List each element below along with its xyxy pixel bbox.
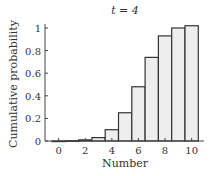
- bar-9: [172, 28, 185, 141]
- x-tick-label: 6: [135, 145, 141, 156]
- x-tick-label: 8: [162, 145, 168, 156]
- bar-7: [145, 57, 158, 141]
- bar-10: [185, 26, 198, 141]
- y-tick-label: 0.2: [25, 113, 41, 124]
- y-tick-label: 0.8: [25, 46, 41, 57]
- y-tick-label: 0.6: [25, 68, 41, 79]
- y-tick-label: 0.4: [25, 91, 41, 102]
- x-axis-label: Number: [102, 157, 149, 170]
- bar-3: [92, 138, 105, 141]
- cumulative-probability-chart: t = 4 00.20.40.60.81 0246810 Number Cumu…: [0, 0, 217, 176]
- bar-8: [158, 36, 171, 141]
- bar-series: [52, 26, 198, 142]
- x-tick-label: 2: [82, 145, 88, 156]
- chart-title: t = 4: [111, 4, 139, 17]
- bar-5: [119, 113, 132, 141]
- x-tick-label: 0: [55, 145, 61, 156]
- bar-6: [132, 87, 145, 141]
- x-tick-label: 10: [185, 145, 198, 156]
- y-tick-label: 0: [35, 136, 41, 147]
- x-tick-label: 4: [109, 145, 115, 156]
- y-tick-label: 1: [35, 23, 41, 34]
- y-axis-label: Cumulative probability: [7, 19, 20, 148]
